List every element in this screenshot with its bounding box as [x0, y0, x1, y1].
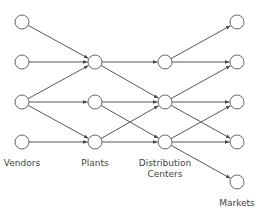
column-label-line: Vendors: [0, 158, 62, 169]
node-v3: [15, 95, 29, 109]
edge-v1-to-p1: [28, 25, 88, 58]
edge-d2-to-m2: [171, 66, 230, 99]
node-d1: [158, 55, 172, 69]
node-m5: [230, 175, 244, 189]
node-m1: [230, 15, 244, 29]
column-label-plants: Plants: [55, 158, 135, 169]
node-v2: [15, 55, 29, 69]
column-label-line: Plants: [55, 158, 135, 169]
edge-d1-to-m1: [171, 26, 230, 59]
edge-v3-to-p1: [28, 66, 88, 99]
node-p2: [88, 95, 102, 109]
node-m3: [230, 95, 244, 109]
column-label-markets: Markets: [197, 198, 260, 209]
supply-chain-diagram: [0, 0, 260, 220]
node-m4: [230, 135, 244, 149]
edge-p1-to-d2: [101, 65, 158, 98]
node-p1: [88, 55, 102, 69]
node-m2: [230, 55, 244, 69]
edge-v3-to-p3: [28, 105, 88, 138]
column-label-line: Markets: [197, 198, 260, 209]
node-d3: [158, 135, 172, 149]
node-d2: [158, 95, 172, 109]
column-label-dcs: DistributionCenters: [125, 158, 205, 180]
column-label-line: Centers: [125, 169, 205, 180]
column-label-vendors: Vendors: [0, 158, 62, 169]
column-label-line: Distribution: [125, 158, 205, 169]
node-p3: [88, 135, 102, 149]
node-v4: [15, 135, 29, 149]
edges-layer: [28, 25, 230, 178]
node-v1: [15, 15, 29, 29]
